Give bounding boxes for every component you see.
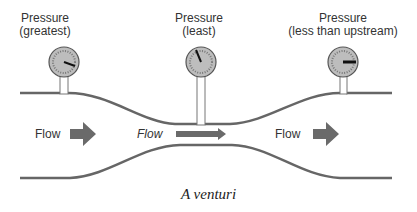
pressure-gauge-2-icon [186,47,216,125]
flow-label-1: Flow [35,127,60,141]
flow-label-3: Flow [275,127,300,141]
flow-arrow-2-icon [176,128,226,140]
flow-arrow-3-icon [313,122,339,146]
pipe-top-wall [20,93,392,124]
flow-arrow-1-icon [70,122,96,146]
diagram-caption: A venturi [0,186,417,203]
flow-label-2: Flow [137,127,162,141]
pressure-gauge-1-icon [49,47,79,94]
pressure-gauge-3-icon [328,47,358,94]
venturi-diagram [0,0,417,212]
pipe-bottom-wall [20,145,392,178]
